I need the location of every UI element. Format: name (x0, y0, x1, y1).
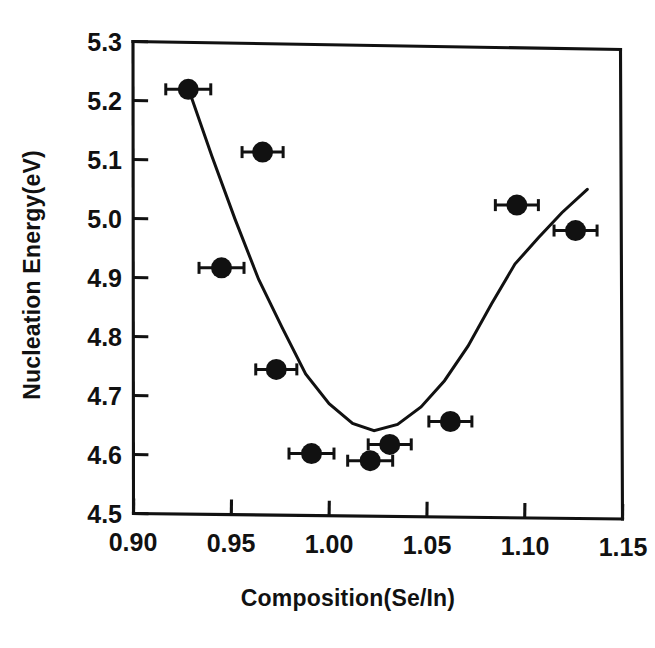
data-point-marker (379, 434, 400, 455)
y-tick-label-4.6: 4.6 (87, 441, 122, 469)
y-axis-ticks (133, 42, 149, 514)
data-point-marker (266, 359, 287, 380)
data-point (256, 359, 297, 380)
data-point-marker (565, 220, 586, 241)
y-tick-label-4.5: 4.5 (87, 500, 122, 528)
data-point-marker (360, 450, 381, 471)
x-axis-line (134, 514, 623, 520)
data-point-marker (211, 257, 232, 278)
chart-svg: 5.3 5.2 5.1 5.0 4.9 4.8 4.7 4.6 4.5 0.90… (0, 0, 655, 648)
data-point-marker (178, 79, 199, 100)
data-point (429, 411, 472, 432)
x-tick-label-0.95: 0.95 (207, 529, 256, 557)
y-tick-label-5.3: 5.3 (87, 28, 122, 56)
x-tick-labels: 0.90 0.95 1.00 1.05 1.10 1.15 (109, 528, 648, 561)
data-point (495, 195, 538, 216)
y-tick-labels: 5.3 5.2 5.1 5.0 4.9 4.8 4.7 4.6 4.5 (87, 28, 122, 528)
data-point (199, 257, 244, 278)
x-tick-label-0.90: 0.90 (109, 528, 158, 556)
y-tick-label-4.9: 4.9 (87, 264, 122, 292)
frame-right-line (621, 50, 623, 520)
x-axis-title: Composition(Se/In) (241, 585, 455, 611)
data-point-marker (440, 411, 461, 432)
x-tick-label-1.10: 1.10 (501, 532, 550, 560)
data-point-marker (252, 142, 273, 163)
fit-curve (188, 88, 587, 431)
y-tick-label-4.8: 4.8 (87, 323, 122, 351)
y-tick-label-5.2: 5.2 (87, 87, 122, 115)
data-point-marker (301, 443, 322, 464)
data-point-marker (506, 195, 527, 216)
y-tick-label-4.7: 4.7 (87, 382, 122, 410)
chart-figure: 5.3 5.2 5.1 5.0 4.9 4.8 4.7 4.6 4.5 0.90… (0, 0, 655, 648)
x-tick-label-1.15: 1.15 (599, 533, 648, 561)
frame-top-line (133, 42, 621, 50)
data-points-layer (166, 79, 597, 471)
x-tick-label-1.00: 1.00 (305, 530, 354, 558)
y-axis-title: Nucleation Energy(eV) (19, 150, 45, 400)
data-point (242, 142, 283, 163)
x-tick-label-1.05: 1.05 (403, 531, 452, 559)
plot-frame (133, 42, 623, 520)
data-point (289, 443, 334, 464)
y-tick-label-5.1: 5.1 (87, 146, 122, 174)
data-point (166, 79, 211, 100)
data-point (554, 220, 597, 241)
y-tick-label-5.0: 5.0 (87, 205, 122, 233)
